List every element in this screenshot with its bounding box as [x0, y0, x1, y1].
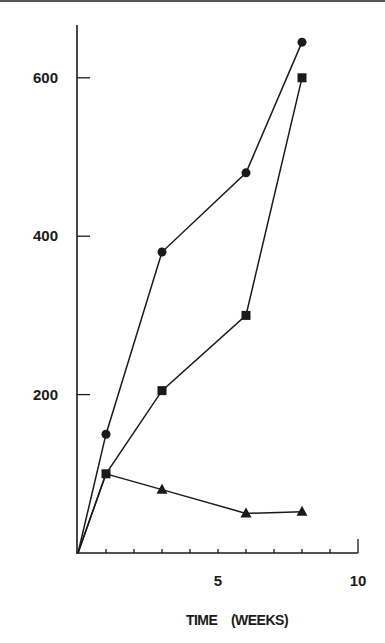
line-chart: 200400600510 TIME (WEEKS): [0, 0, 385, 643]
triangle-marker-icon: [297, 506, 308, 516]
circle-marker-icon: [102, 430, 111, 439]
x-tick-label: 5: [214, 572, 222, 589]
y-tick-label: 400: [33, 227, 58, 244]
series-square: [78, 73, 307, 553]
series-line: [78, 78, 302, 553]
circle-marker-icon: [158, 248, 167, 257]
series-line: [78, 474, 302, 553]
axes: [77, 25, 358, 554]
series-group: [78, 38, 308, 553]
circle-marker-icon: [242, 168, 251, 177]
circle-marker-icon: [298, 38, 307, 47]
series-line: [78, 42, 302, 553]
x-axis-title: TIME (WEEKS): [186, 612, 288, 628]
tick-labels: 200400600510: [33, 69, 366, 589]
series-triangle: [78, 474, 308, 553]
square-marker-icon: [158, 386, 167, 395]
square-marker-icon: [242, 311, 251, 320]
y-tick-label: 600: [33, 69, 58, 86]
y-tick-label: 200: [33, 386, 58, 403]
x-tick-label: 10: [350, 572, 367, 589]
square-marker-icon: [298, 73, 307, 82]
